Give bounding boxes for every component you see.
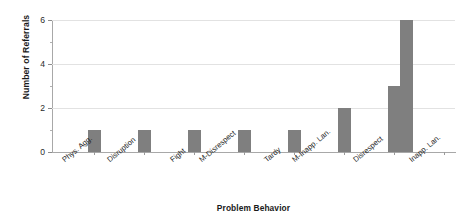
y-tick-label-6: 6	[5, 16, 45, 25]
y-tick-label-0: 0	[5, 148, 45, 157]
bar-disruption[interactable]	[138, 130, 151, 152]
x-tick-mark-1	[144, 152, 145, 155]
gridline-4	[52, 64, 455, 65]
bar-fight[interactable]	[188, 130, 201, 152]
gridline-6	[52, 20, 455, 21]
bar-chart: Number of Referrals 0 2 4 6	[0, 0, 473, 224]
bar-m-disrespect[interactable]	[238, 130, 251, 152]
y-tick-label-4: 4	[5, 60, 45, 69]
x-tick-mark-7	[444, 152, 445, 155]
x-tick-mark-6	[394, 152, 395, 155]
x-axis-title: Problem Behavior	[52, 203, 455, 213]
bar-m-inapp-lan[interactable]	[338, 108, 351, 152]
x-tick-mark-0	[94, 152, 95, 155]
x-tick-mark-3	[244, 152, 245, 155]
plot-area	[52, 20, 455, 152]
x-tick-mark-2	[194, 152, 195, 155]
bar-inapp-lan[interactable]	[400, 20, 413, 152]
y-tick-label-2: 2	[5, 104, 45, 113]
x-tick-mark-5	[344, 152, 345, 155]
